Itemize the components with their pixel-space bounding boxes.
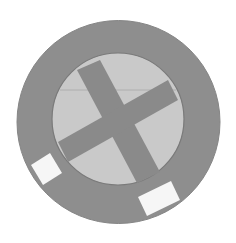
graphic-canvas bbox=[0, 0, 236, 243]
